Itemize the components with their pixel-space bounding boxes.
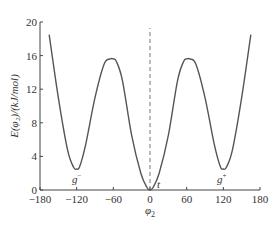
x-tick-label: 60 xyxy=(181,193,193,205)
y-tick-label: 20 xyxy=(26,16,38,28)
x-axis-title-sub: 2 xyxy=(151,210,155,219)
x-axis-title: φ2 xyxy=(145,204,155,219)
x-tick-label: −120 xyxy=(65,193,88,205)
x-tick-label: 120 xyxy=(215,193,232,205)
annotation-t: t xyxy=(157,178,161,190)
chart: 048121620 −180−120−60060120180 φ2 E(φ₂)/… xyxy=(0,0,278,225)
y-tick-label: 12 xyxy=(26,83,37,95)
annotation-g-plus: g+ xyxy=(217,172,227,185)
annotation-g-minus: g− xyxy=(72,172,82,185)
y-tick-label: 4 xyxy=(32,150,38,162)
y-axis-title: E(φ₂)/(kJ/mol) xyxy=(8,74,21,139)
y-tick-label: 16 xyxy=(26,50,38,62)
x-tick-label: −60 xyxy=(105,193,123,205)
y-tick-label: 8 xyxy=(32,117,38,129)
annotation-g-plus-sup: + xyxy=(223,172,227,180)
annotation-g-minus-sup: − xyxy=(78,172,82,180)
x-tick-label: −180 xyxy=(29,193,52,205)
x-tick-label: 180 xyxy=(252,193,269,205)
